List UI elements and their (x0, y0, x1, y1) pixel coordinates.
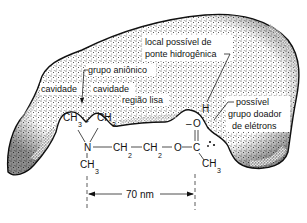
methyl-right: CH (97, 112, 111, 123)
methyl-bottom: CH (80, 159, 94, 170)
svg-text:cavidade: cavidade (93, 84, 129, 94)
positive-charge: + (85, 118, 89, 125)
methyl-left: CH (63, 112, 77, 123)
svg-text:local possível de: local possível de (145, 37, 212, 47)
svg-text:de elétrons: de elétrons (232, 121, 277, 131)
svg-text:–: – (186, 118, 192, 129)
label-cavity-left: cavidade (40, 83, 82, 95)
svg-text:grupo doador: grupo doador (228, 109, 282, 119)
svg-text:CH: CH (113, 142, 127, 153)
svg-text:3: 3 (112, 121, 116, 128)
distance-label: 70 nm (126, 189, 154, 200)
electron-dot (209, 141, 211, 143)
nitrogen-atom: N (84, 142, 91, 153)
acetyl-methyl: CH (202, 158, 216, 169)
electron-dot (213, 144, 215, 146)
svg-text:CH: CH (143, 142, 157, 153)
svg-text:2: 2 (158, 152, 162, 159)
svg-text:região lisa: região lisa (122, 95, 163, 105)
svg-text:ponte hidrogênica: ponte hidrogênica (145, 49, 217, 59)
carbonyl-carbon: C (193, 142, 200, 153)
electron-dot (207, 145, 209, 147)
hydrogen-atom: H (202, 103, 209, 114)
distance-dimension: 70 nm (87, 174, 195, 210)
svg-text:possível: possível (236, 97, 269, 107)
svg-text:grupo aniônico: grupo aniônico (88, 65, 147, 75)
ester-oxygen: O (174, 142, 182, 153)
label-cavity-right: cavidade (91, 83, 135, 95)
svg-text:3: 3 (95, 168, 99, 175)
svg-text:3: 3 (78, 121, 82, 128)
carbonyl-oxygen: O (193, 118, 201, 129)
receptor-diagram: local possível de ponte hidrogênica grup… (0, 0, 307, 223)
svg-text:2: 2 (128, 152, 132, 159)
svg-text:cavidade: cavidade (41, 84, 77, 94)
label-flat-region: região lisa (121, 94, 169, 106)
svg-text:3: 3 (217, 167, 221, 174)
